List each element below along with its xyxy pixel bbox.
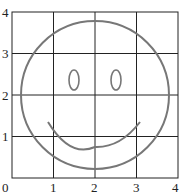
y-tick-1: 1 (2, 130, 9, 143)
x-tick-1: 1 (50, 181, 57, 193)
grid-lines (12, 12, 178, 178)
x-tick-2: 2 (91, 181, 98, 193)
coordinate-grid (0, 0, 180, 193)
y-tick-2: 2 (2, 89, 9, 102)
x-tick-4: 4 (172, 181, 179, 193)
mouth-arc (48, 122, 140, 150)
y-tick-4: 4 (2, 6, 9, 19)
y-tick-3: 3 (2, 47, 9, 60)
origin-label: 0 (2, 181, 9, 193)
right-eye (111, 70, 121, 90)
x-tick-3: 3 (133, 181, 140, 193)
left-eye (69, 70, 79, 90)
